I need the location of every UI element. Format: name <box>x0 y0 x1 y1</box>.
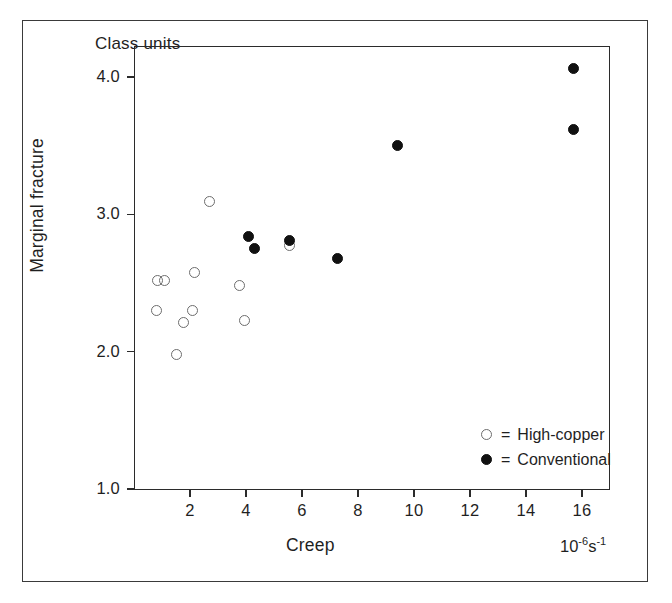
plot-area: 1.02.03.04.0 246810121416 = High-copper … <box>134 46 610 490</box>
data-point-conventional <box>249 243 260 254</box>
data-point-high-copper <box>234 280 245 291</box>
data-point-high-copper <box>178 317 189 328</box>
x-tick-label: 2 <box>170 501 210 520</box>
x-units-base: 10 <box>560 537 578 555</box>
legend-label-conventional: Conventional <box>517 447 610 472</box>
x-tick-mark <box>245 489 246 497</box>
legend-equals-sign: = <box>501 422 510 447</box>
data-point-conventional <box>243 231 254 242</box>
x-tick-mark <box>189 489 190 497</box>
y-axis-title: Marginal fracture <box>27 76 48 336</box>
x-tick-label: 14 <box>506 501 546 520</box>
data-point-conventional <box>332 253 343 264</box>
legend-item-high-copper: = High-copper <box>481 422 611 447</box>
x-axis-title: Creep <box>286 535 335 556</box>
data-point-conventional <box>392 140 403 151</box>
x-tick-label: 8 <box>338 501 378 520</box>
filled-circle-icon <box>481 454 492 465</box>
x-tick-mark <box>525 489 526 497</box>
x-tick-label: 12 <box>450 501 490 520</box>
x-units-exp-1: -6 <box>578 535 588 547</box>
plot-frame-top <box>134 46 610 47</box>
data-point-high-copper <box>187 305 198 316</box>
y-tick-label: 2.0 <box>80 342 120 361</box>
data-point-conventional <box>284 235 295 246</box>
x-tick-label: 6 <box>282 501 322 520</box>
data-point-conventional <box>568 63 579 74</box>
open-circle-icon <box>481 429 492 440</box>
x-tick-mark <box>469 489 470 497</box>
plot-frame-left <box>134 46 135 490</box>
y-tick-mark <box>127 488 135 489</box>
data-point-high-copper <box>151 305 162 316</box>
x-tick-mark <box>301 489 302 497</box>
legend-item-conventional: = Conventional <box>481 447 611 472</box>
x-tick-label: 10 <box>394 501 434 520</box>
x-axis-units: 10-6s-1 <box>560 535 606 556</box>
x-tick-mark <box>357 489 358 497</box>
data-point-high-copper <box>171 349 182 360</box>
y-tick-label: 1.0 <box>80 479 120 498</box>
x-tick-label: 16 <box>562 501 602 520</box>
data-point-conventional <box>568 124 579 135</box>
data-point-high-copper <box>159 275 170 286</box>
x-units-exp-2: -1 <box>596 535 606 547</box>
data-point-high-copper <box>204 196 215 207</box>
y-tick-mark <box>127 351 135 352</box>
x-tick-label: 4 <box>226 501 266 520</box>
y-tick-mark <box>127 214 135 215</box>
data-point-high-copper <box>189 267 200 278</box>
y-tick-mark <box>127 76 135 77</box>
y-tick-label: 3.0 <box>80 204 120 223</box>
x-tick-mark <box>413 489 414 497</box>
legend-equals-sign: = <box>501 447 510 472</box>
x-tick-mark <box>581 489 582 497</box>
y-tick-label: 4.0 <box>80 67 120 86</box>
plot-frame-bottom <box>134 489 610 490</box>
legend: = High-copper = Conventional <box>481 422 611 472</box>
figure-page: Class units Marginal fracture Creep 10-6… <box>0 0 672 603</box>
legend-label-high-copper: High-copper <box>517 422 604 447</box>
data-point-high-copper <box>239 315 250 326</box>
